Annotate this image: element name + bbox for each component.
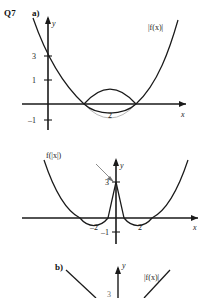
- question-number: Q7: [4, 8, 16, 18]
- y-axis-label: y: [119, 161, 124, 170]
- x-axis-arrowhead: [191, 215, 198, 221]
- x-tick-label-2: 2: [138, 223, 142, 232]
- curve-label-abs-f: |f(x)|: [148, 23, 163, 32]
- x-axis-arrowhead: [179, 101, 186, 107]
- y-tick-label-neg1: –1: [27, 116, 36, 125]
- figure-part-b-abs-f: y |f(x)| 3: [18, 258, 208, 298]
- curve-label-abs-f-b: |f(x)|: [144, 273, 159, 282]
- y-tick-label-3: 3: [107, 290, 111, 298]
- x-axis-label: x: [192, 223, 197, 232]
- x-tick-label-neg2: –2: [89, 223, 98, 232]
- y-axis-label: y: [121, 261, 126, 270]
- f-abs-x-right-branch: [116, 160, 188, 226]
- abs-f-reflected-hump: [84, 89, 136, 104]
- x-tick-label-2: 2: [108, 111, 112, 120]
- figure-f-of-abs-x: y x 3 –1 –2 2 f(|x|): [18, 148, 208, 252]
- figure-abs-f-of-x: y x 3 1 –1 2 |f(x)|: [18, 8, 208, 140]
- left-branch: [66, 270, 96, 298]
- curve-label-f-abs-x: f(|x|): [46, 151, 62, 160]
- y-axis-arrowhead: [115, 266, 121, 274]
- abs-f-curve: [33, 18, 178, 113]
- y-axis-arrowhead: [45, 16, 51, 24]
- y-axis-label: y: [51, 19, 56, 28]
- f-abs-x-left-branch: [44, 160, 116, 226]
- y-tick-label-3: 3: [32, 52, 36, 61]
- x-axis-label: x: [180, 110, 185, 119]
- y-tick-label-neg1: –1: [100, 228, 109, 237]
- y-tick-label-1: 1: [32, 76, 36, 85]
- y-tick-label-3: 3: [105, 178, 109, 187]
- y-axis-arrowhead: [113, 158, 119, 166]
